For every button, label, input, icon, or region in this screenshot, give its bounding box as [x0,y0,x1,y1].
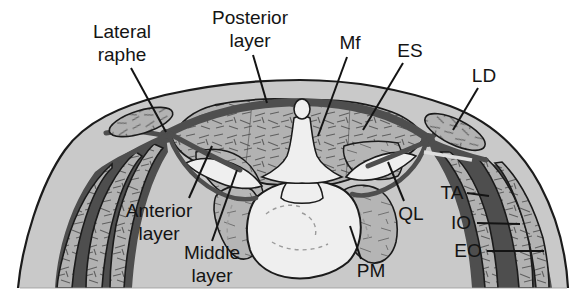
label-text-posterior-layer: Posteriorlayer [212,7,289,51]
label-text-ld: LD [472,65,496,86]
anatomy-diagram: LateralraphePosteriorlayerMfESLDTAIOEOQL… [0,0,583,303]
label-text-ql: QL [398,203,423,224]
label-text-mf: Mf [339,32,361,53]
figure-canvas: LateralraphePosteriorlayerMfESLDTAIOEOQL… [0,0,583,303]
leader-line-io [477,223,520,224]
label-text-eo: EO [454,240,481,261]
label-text-lateral-raphe: Lateralraphe [93,21,151,65]
label-text-io: IO [451,212,471,233]
spinous-process-tip [294,99,310,119]
label-text-ta: TA [441,182,464,203]
label-text-es: ES [397,40,422,61]
label-text-pm: PM [357,260,386,281]
